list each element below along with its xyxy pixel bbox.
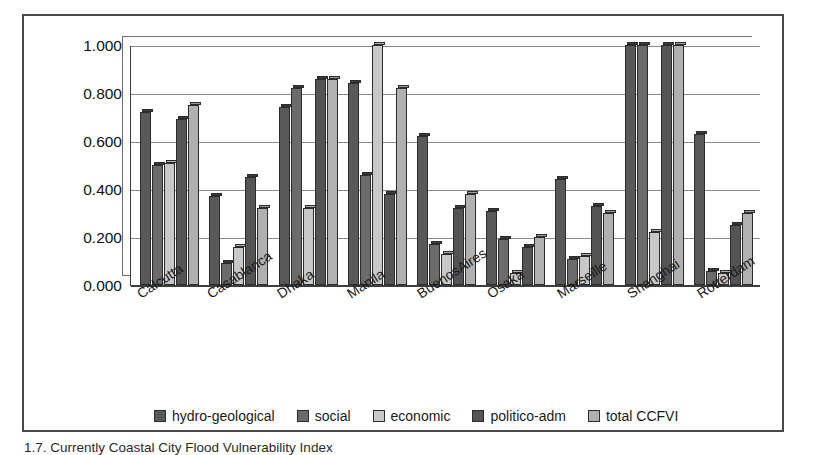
legend-swatch-politico-adm-icon (472, 410, 484, 422)
bar (360, 175, 371, 285)
bar-group (273, 46, 342, 285)
bar (625, 45, 636, 285)
bar-body (209, 196, 220, 285)
bar-body (603, 213, 614, 285)
bar-body (555, 179, 566, 285)
bar (694, 134, 705, 285)
bar (417, 136, 428, 285)
bar (673, 45, 684, 285)
bar-body (257, 208, 268, 285)
y-tick-label: 1.000 (42, 37, 122, 55)
bar (534, 237, 545, 285)
bar-body (348, 83, 359, 285)
figure-frame: 1.0000.8000.6000.4000.2000.000 CalcuttaC… (22, 14, 784, 432)
bar (486, 211, 497, 285)
y-tick-label: 0.000 (42, 277, 122, 295)
bar-body (140, 112, 151, 285)
bar-body (291, 88, 302, 285)
legend-swatch-social-icon (297, 410, 309, 422)
bar-body (152, 165, 163, 285)
bar-body (694, 134, 705, 285)
bar-groups (131, 46, 760, 285)
legend-swatch-total-ccfvi-icon (588, 410, 600, 422)
bar (372, 45, 383, 285)
bar-group (412, 46, 481, 285)
bar (661, 45, 672, 285)
bar-group (135, 46, 204, 285)
y-tick-label: 0.400 (42, 181, 122, 199)
bar-body (372, 45, 383, 285)
bar-body (417, 136, 428, 285)
legend-label: total CCFVI (606, 408, 678, 424)
legend-label: hydro-geological (172, 408, 275, 424)
bar (348, 83, 359, 285)
bar (396, 88, 407, 285)
bar (279, 107, 290, 285)
bar-group (550, 46, 619, 285)
bar-body (637, 45, 648, 285)
bar-body (486, 211, 497, 285)
x-axis-labels: CalcuttaCasablancaDhakaManilaBuenosAires… (130, 288, 760, 378)
legend-label: economic (391, 408, 451, 424)
bar (327, 79, 338, 285)
y-tick-label: 0.800 (42, 85, 122, 103)
bar (257, 208, 268, 285)
bar (140, 112, 151, 285)
bar-body (673, 45, 684, 285)
bar-body (315, 79, 326, 285)
legend-swatch-hydro-geological-icon (154, 410, 166, 422)
bar (384, 194, 395, 285)
legend-item[interactable]: economic (373, 408, 451, 424)
plot-area-wrapper: 1.0000.8000.6000.4000.2000.000 (130, 46, 760, 286)
legend-label: politico-adm (490, 408, 565, 424)
legend-item[interactable]: politico-adm (472, 408, 565, 424)
legend-item[interactable]: hydro-geological (154, 408, 275, 424)
bar-body (360, 175, 371, 285)
bar-group (343, 46, 412, 285)
bar (637, 45, 648, 285)
bar-group (620, 46, 689, 285)
bar (152, 165, 163, 285)
y-tick-label: 0.200 (42, 229, 122, 247)
y-tick-label: 0.600 (42, 133, 122, 151)
bar (555, 179, 566, 285)
bar-body (625, 45, 636, 285)
bar (209, 196, 220, 285)
bar (291, 88, 302, 285)
bar (603, 213, 614, 285)
legend-item[interactable]: total CCFVI (588, 408, 678, 424)
bar-body (188, 105, 199, 285)
legend-item[interactable]: social (297, 408, 351, 424)
chart-legend: hydro-geologicalsocialeconomicpolitico-a… (154, 408, 744, 424)
legend-swatch-economic-icon (373, 410, 385, 422)
bar-body (661, 45, 672, 285)
legend-label: social (315, 408, 351, 424)
figure-caption: 1.7. Currently Coastal City Flood Vulner… (24, 440, 333, 455)
bar-body (384, 194, 395, 285)
bar (315, 79, 326, 285)
bar-group (689, 46, 758, 285)
plot-area (130, 46, 760, 286)
bar-body (279, 107, 290, 285)
bar-group (481, 46, 550, 285)
bar-body (396, 88, 407, 285)
bar (188, 105, 199, 285)
bar-body (534, 237, 545, 285)
bar-body (327, 79, 338, 285)
